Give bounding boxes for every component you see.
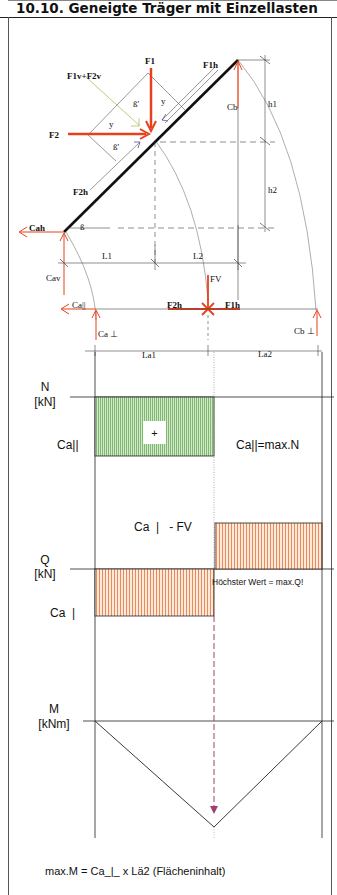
f1h-parallel-line: [165, 70, 218, 123]
q-area-upper: [215, 523, 322, 569]
label-l2: L2: [193, 251, 203, 261]
n-sign: +: [151, 427, 157, 439]
label-cb: Cb: [227, 102, 238, 112]
force-decomposition-lines: [88, 73, 187, 161]
m-formula: max.M = Ca_|_ x Lä2 (Flächeninhalt): [45, 865, 225, 877]
label-ca-perp: Ca ⊥: [98, 329, 118, 339]
label-f1: F1: [145, 56, 155, 66]
n-axis-unit: [kN]: [34, 395, 55, 409]
label-cah: Cah: [29, 223, 45, 233]
system-diagram: F1 F1v+F2v F1h ß' y y F2 ß' F2h Cb h1 h2…: [19, 55, 322, 360]
label-f1v-f2v: F1v+F2v: [67, 71, 102, 81]
label-fv: FV: [210, 274, 222, 284]
label-la2: La2: [258, 349, 272, 359]
label-f1h: F1h: [203, 60, 218, 70]
q-area-lower: [95, 569, 214, 616]
beam-diagram: F1 F1v+F2v F1h ß' y y F2 ß' F2h Cb h1 h2…: [0, 0, 337, 895]
q-upper-label: Ca | - FV: [134, 520, 192, 534]
label-cb-perp: Cb ⊥: [294, 326, 315, 336]
q-lower-label: Ca |: [50, 606, 75, 620]
label-beta-prime-2: ß': [113, 142, 120, 152]
m-triangle: [95, 721, 322, 827]
shear-force-diagram: Ca | - FV Q [kN] Ca | Höchster Wert = ma…: [34, 520, 334, 620]
n-annotation: Ca||=max.N: [236, 438, 299, 452]
label-cav: Cav: [46, 273, 61, 283]
max-moment-arrowhead: [210, 806, 218, 814]
label-beta: ß: [80, 222, 85, 232]
q-axis-unit: [kN]: [34, 567, 55, 581]
label-f2: F2: [49, 130, 59, 140]
label-h1: h1: [268, 99, 277, 109]
projection-arc-mid: [155, 140, 208, 300]
label-gamma-2: y: [109, 119, 114, 129]
q-annotation: Höchster Wert = max.Q!: [212, 577, 303, 587]
label-l1: L1: [102, 251, 112, 261]
n-axis-label: N: [41, 380, 50, 394]
q-axis-label: Q: [40, 553, 49, 567]
label-h2: h2: [268, 185, 277, 195]
projection-arc-right: [238, 60, 316, 310]
label-beta-prime-1: ß': [133, 99, 140, 109]
normal-force-diagram: + N [kN] Ca|| Ca||=max.N: [34, 380, 334, 456]
moment-diagram: M [kNm] max.M = Ca_|_ x Lä2 (Flächeninha…: [38, 616, 334, 877]
n-value-label: Ca||: [57, 438, 79, 452]
label-f2h: F2h: [73, 187, 88, 197]
m-axis-label: M: [49, 702, 59, 716]
label-la1: La1: [142, 350, 156, 360]
label-f1h-bottom: F1h: [225, 300, 240, 310]
label-gamma-1: y: [161, 96, 166, 106]
m-axis-unit: [kNm]: [38, 717, 69, 731]
label-f2h-bottom: F2h: [167, 300, 182, 310]
label-ca-parallel: Ca||: [72, 300, 86, 310]
